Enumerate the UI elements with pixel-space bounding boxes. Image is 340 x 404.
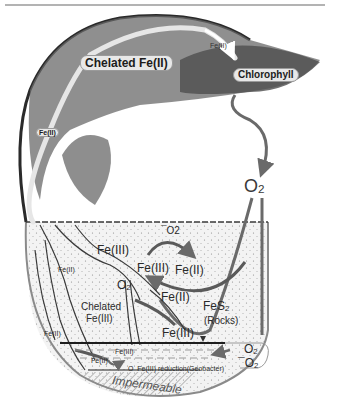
fe3-lower-label: Fe(III) bbox=[162, 327, 194, 339]
fes2-label: FeS2 bbox=[203, 300, 229, 313]
chlorophyll-label: Chlorophyll bbox=[233, 68, 299, 82]
fe3-water-label: Fe(III) bbox=[115, 348, 134, 355]
o2-water-top-label: O2 bbox=[244, 343, 258, 356]
chelated-fe3-line2: Fe(III) bbox=[86, 314, 113, 324]
fe2-root-left-label: Fe(II) bbox=[58, 266, 75, 273]
o2-water-bottom-label: ¯O2 bbox=[238, 357, 258, 370]
fe2-water-label: Fe(II) bbox=[91, 357, 108, 364]
fe2-cycle-label: Fe(II) bbox=[175, 264, 204, 276]
o2-soil-label: O2 bbox=[117, 279, 131, 292]
leaf-small bbox=[62, 135, 111, 205]
minus-o2-label: ¯O2 bbox=[161, 226, 180, 236]
iron-cycle-diagram: Chelated Fe(II) Fe(II) Chlorophyll Fe(II… bbox=[0, 0, 340, 404]
o2-air-label: O2 bbox=[244, 177, 265, 195]
chelated-fe3-line1: Chelated bbox=[81, 302, 121, 312]
fe2-arrow-label: Fe(II) bbox=[210, 42, 227, 49]
reduction-label: O Fe(III) reduction(Geobacter) bbox=[128, 365, 224, 372]
fe2-lower-left-label: Fe(II) bbox=[44, 330, 61, 337]
chelated-fe2-label: Chelated Fe(II) bbox=[80, 55, 173, 71]
fe2-stem-label: Fe(II) bbox=[36, 128, 59, 137]
fe2-mid-label: Fe(II) bbox=[161, 291, 190, 303]
fe3-cycle-label: Fe(III) bbox=[137, 262, 169, 274]
fe3-soil-label: Fe(III) bbox=[97, 244, 129, 256]
chlorophyll-o2-arrow bbox=[232, 95, 266, 172]
rocks-label: (Rocks) bbox=[204, 316, 238, 326]
